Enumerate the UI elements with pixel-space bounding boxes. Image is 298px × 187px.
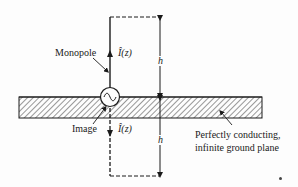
ground-plane-label-line2: infinite ground plane — [195, 143, 279, 153]
monopole-image-diagram: Monopole Î(z) h Image Î(z) h Perfectly c… — [0, 0, 298, 187]
voltage-source-icon — [101, 88, 120, 107]
ground-plane-label-line1: Perfectly conducting, — [195, 130, 281, 140]
current-label-top: Î(z) — [118, 48, 132, 58]
diagram-graphics — [0, 0, 298, 187]
ground-plane — [19, 97, 262, 118]
current-label-bottom: Î(z) — [118, 124, 132, 134]
current-arrow-down-icon — [107, 130, 113, 137]
height-label-top: h — [157, 56, 164, 66]
monopole-label: Monopole — [55, 48, 96, 58]
current-arrow-up-icon — [107, 50, 113, 57]
image-label: Image — [72, 124, 97, 134]
height-label-bottom: h — [157, 135, 164, 145]
dot-mark — [279, 177, 282, 180]
